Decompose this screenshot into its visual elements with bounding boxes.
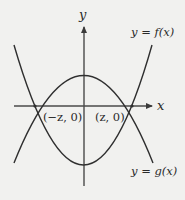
point-neg-z-label: (−z, 0) [43,112,82,124]
function-graph-diagram: y x y = f(x) y = g(x) (−z, 0) (z, 0) [0,0,185,200]
y-axis-label: y [79,8,86,21]
point-z-label: (z, 0) [95,112,125,124]
curve-g-label: y = g(x) [131,166,177,178]
intersection-right [130,104,133,107]
x-axis-label: x [157,99,164,112]
curve-f-label: y = f(x) [131,27,174,39]
intersection-left [33,104,36,107]
